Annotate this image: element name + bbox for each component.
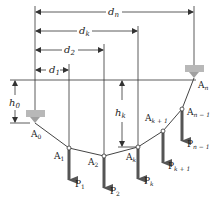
node-ak1	[161, 129, 165, 133]
cable-diagram: d1 d2 dk dn h0 hk A0 A1 A2 Ak Ak + 1 An …	[0, 0, 218, 206]
label-dn: dn	[108, 6, 119, 19]
node-ak	[136, 145, 140, 149]
support-an-pin	[189, 72, 199, 78]
support-a0-block	[26, 110, 45, 117]
node-a1	[67, 146, 71, 150]
label-h0: h0	[9, 97, 20, 110]
support-a0	[26, 110, 45, 123]
label-ak1: Ak + 1	[144, 113, 168, 124]
horizontal-dimensions	[36, 12, 193, 70]
node-an1	[180, 107, 184, 111]
node-a2	[102, 154, 106, 158]
support-an	[185, 65, 204, 78]
label-an: An	[197, 80, 209, 91]
label-p1: P1	[75, 179, 85, 190]
label-a2: A2	[87, 157, 99, 168]
label-a1: A1	[53, 151, 64, 162]
label-an1: An − 1	[186, 107, 210, 118]
label-p2: P2	[110, 186, 120, 197]
label-ak: Ak	[125, 152, 137, 163]
support-a0-pin	[30, 117, 40, 123]
label-pk: Pk	[144, 176, 154, 187]
reference-lines	[10, 6, 196, 154]
label-pn1: Pn − 1	[187, 139, 210, 150]
label-dk: dk	[79, 25, 90, 38]
label-d2: d2	[64, 44, 75, 57]
label-hk: hk	[115, 107, 126, 120]
label-a0: A0	[30, 129, 42, 140]
label-pk1: Pk + 1	[168, 161, 190, 172]
label-d1: d1	[49, 64, 60, 77]
support-an-block	[185, 65, 204, 72]
